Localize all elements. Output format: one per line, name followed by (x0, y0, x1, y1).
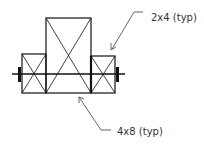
leader-4x8 (79, 97, 111, 130)
diagram-canvas: 2x4 (typ) 4x8 (typ) (0, 0, 204, 151)
center-member-4x8 (46, 18, 91, 93)
label-2x4: 2x4 (typ) (151, 12, 197, 23)
leader-2x4 (111, 12, 143, 50)
through-bolt (12, 67, 125, 82)
label-4x8: 4x8 (typ) (117, 126, 163, 137)
